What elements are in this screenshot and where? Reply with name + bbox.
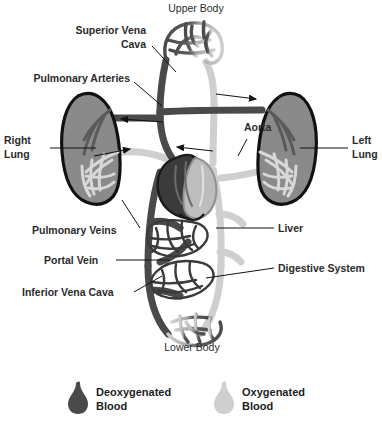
pulmonary-artery-left (160, 110, 262, 112)
pulmonary-vein-flow-right (177, 147, 213, 151)
label-right-lung-line1: Right (4, 134, 31, 146)
circulatory-system-diagram: Upper Body Superior Vena Cava Pulmonary … (0, 0, 382, 427)
digestive-organ (151, 261, 213, 298)
right-lung-organ (62, 93, 120, 204)
deoxygenated-blood-drop-icon (68, 382, 88, 415)
label-pulmonary-arteries: Pulmonary Arteries (34, 72, 131, 84)
label-left-lung-line2: Lung (352, 148, 378, 160)
legend-deoxygenated-line1: Deoxygenated (96, 386, 171, 398)
label-liver: Liver (278, 222, 303, 234)
leader-pulmonary-veins (122, 200, 140, 228)
label-portal-vein: Portal Vein (44, 254, 98, 266)
pulmonary-artery-flow-right (216, 94, 256, 99)
legend: Deoxygenated Blood Oxygenated Blood (68, 382, 305, 415)
superior-vena-cava-vessel (160, 60, 166, 112)
label-upper-body: Upper Body (168, 2, 224, 14)
label-lower-body: Lower Body (164, 341, 220, 353)
legend-oxygenated-line2: Blood (242, 400, 273, 412)
label-right-lung-line2: Lung (4, 148, 30, 160)
upper-body-capillaries (165, 22, 222, 63)
legend-oxygenated-line1: Oxygenated (242, 386, 305, 398)
label-superior-vena-cava-line2: Cava (121, 38, 146, 50)
diagram-canvas: Upper Body Superior Vena Cava Pulmonary … (0, 0, 382, 427)
portal-vein-vessel (160, 242, 188, 262)
leader-digestive-system (206, 268, 274, 278)
label-pulmonary-veins: Pulmonary Veins (32, 224, 117, 236)
label-superior-vena-cava-line1: Superior Vena (75, 24, 146, 36)
label-digestive-system: Digestive System (278, 262, 365, 274)
label-aorta: Aorta (244, 121, 272, 133)
leader-aorta (238, 139, 247, 156)
aorta-arch-upper (206, 62, 214, 104)
label-inferior-vena-cava: Inferior Vena Cava (22, 286, 114, 298)
inferior-vena-cava-vessel (148, 266, 168, 334)
label-left-lung-line1: Left (352, 134, 372, 146)
left-lung-organ (258, 93, 316, 204)
heart-organ (158, 155, 217, 220)
legend-deoxygenated-line2: Blood (96, 400, 127, 412)
oxygenated-blood-drop-icon (214, 382, 234, 415)
